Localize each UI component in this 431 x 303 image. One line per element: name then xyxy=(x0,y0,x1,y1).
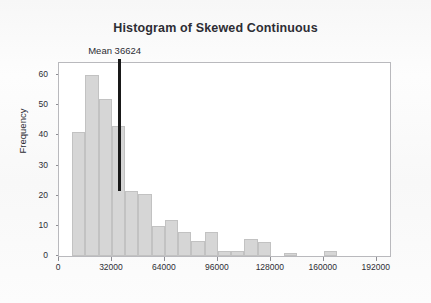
histogram-bar xyxy=(165,220,178,256)
histogram-bar xyxy=(258,242,271,256)
x-tick-mark xyxy=(376,257,377,261)
x-tick-mark xyxy=(323,257,324,261)
y-axis-title: Frequency xyxy=(17,109,28,154)
y-tick-label: 0 xyxy=(43,250,48,260)
x-tick-label: 64000 xyxy=(152,262,176,272)
histogram-bar xyxy=(218,251,231,256)
x-tick-label: 128000 xyxy=(256,262,284,272)
histogram-bar xyxy=(138,194,151,256)
x-tick-label: 96000 xyxy=(205,262,229,272)
y-tick-label: 10 xyxy=(39,220,48,230)
histogram-bar xyxy=(152,226,165,256)
mean-label: Mean 36624 xyxy=(88,45,141,56)
histogram-bar xyxy=(72,132,85,256)
y-tick-label: 20 xyxy=(39,190,48,200)
x-tick-mark xyxy=(111,257,112,261)
x-tick-label: 32000 xyxy=(99,262,123,272)
y-tick-label: 30 xyxy=(39,160,48,170)
y-tick-label: 50 xyxy=(39,99,48,109)
y-axis-ticks: 0102030405060 xyxy=(34,62,54,257)
x-tick-mark xyxy=(58,257,59,261)
histogram-bar xyxy=(284,253,297,256)
x-axis-ticks: 0320006400096000128000160000192000 xyxy=(58,257,391,281)
mean-reference-line xyxy=(118,59,121,191)
histogram-bar xyxy=(125,191,138,256)
chart-title: Histogram of Skewed Continuous xyxy=(0,21,431,35)
plot-area xyxy=(59,63,390,256)
histogram-bar xyxy=(231,251,244,256)
histogram-figure: Histogram of Skewed Continuous Frequency… xyxy=(0,0,431,303)
x-tick-label: 160000 xyxy=(309,262,337,272)
histogram-bar xyxy=(191,241,204,256)
histogram-bar xyxy=(324,251,337,256)
x-tick-mark xyxy=(164,257,165,261)
histogram-bar xyxy=(205,232,218,256)
y-tick-label: 40 xyxy=(39,129,48,139)
x-tick-mark xyxy=(217,257,218,261)
x-tick-label: 192000 xyxy=(362,262,390,272)
x-tick-mark xyxy=(270,257,271,261)
histogram-bar xyxy=(85,75,98,256)
histogram-bar xyxy=(178,232,191,256)
histogram-bar xyxy=(99,99,112,256)
y-tick-label: 60 xyxy=(39,69,48,79)
plot-frame xyxy=(58,62,391,257)
x-tick-label: 0 xyxy=(56,262,61,272)
histogram-bar xyxy=(244,239,257,256)
